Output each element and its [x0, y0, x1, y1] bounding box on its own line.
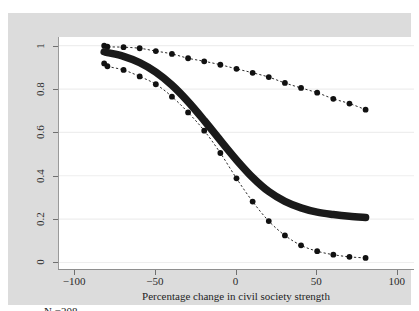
data-point — [250, 199, 256, 205]
x-axis-tick-label: 50 — [293, 275, 339, 287]
data-point — [185, 55, 191, 61]
data-point — [347, 254, 353, 260]
chart-plot-svg — [59, 37, 414, 269]
x-axis-tick-label: 100 — [374, 275, 419, 287]
data-point — [298, 242, 304, 248]
y-axis-tick-label: 0.2 — [33, 204, 47, 234]
plot-area — [58, 37, 413, 269]
data-point — [201, 58, 207, 64]
data-point — [250, 70, 256, 76]
data-point — [217, 150, 223, 156]
data-point — [347, 101, 353, 107]
data-point — [153, 81, 159, 87]
y-axis-tick-label: 0.4 — [33, 161, 47, 191]
y-axis-tick-label: 1 — [33, 31, 47, 61]
y-axis-tick-label: 0.6 — [33, 117, 47, 147]
sample-size-annotation: N =208 — [44, 305, 77, 311]
data-point — [217, 62, 223, 68]
y-axis-tick-label: 0.8 — [33, 74, 47, 104]
data-point — [169, 51, 175, 57]
series-line-point-estimate — [104, 52, 365, 218]
data-point — [234, 66, 240, 72]
page-artifact-text — [0, 0, 419, 13]
data-point — [266, 218, 272, 224]
data-point — [298, 85, 304, 91]
data-point — [185, 110, 191, 116]
data-point — [137, 45, 143, 51]
x-axis-tick-label: −100 — [51, 275, 97, 287]
data-point — [105, 63, 111, 69]
data-point — [282, 80, 288, 86]
y-axis-tick-label: 0 — [33, 247, 47, 277]
data-point — [363, 255, 369, 261]
y-axis-tick-mark — [53, 132, 58, 133]
data-point — [234, 175, 240, 181]
x-axis-title: Percentage change in civil society stren… — [58, 290, 414, 302]
data-point — [169, 94, 175, 100]
data-point — [137, 74, 143, 80]
y-axis-tick-mark — [53, 176, 58, 177]
data-point — [201, 128, 207, 134]
y-axis-tick-mark — [53, 46, 58, 47]
y-axis-tick-mark — [53, 219, 58, 220]
data-point — [314, 90, 320, 96]
data-point — [121, 67, 127, 73]
chart-outer-panel: 00.20.40.60.81 −100−50050100 Percentage … — [8, 13, 411, 305]
y-axis-tick-mark — [53, 262, 58, 263]
series-line-upper-confidence-bound — [104, 46, 365, 110]
x-axis-tick-label: 0 — [213, 275, 259, 287]
data-point — [266, 74, 272, 80]
data-point — [330, 252, 336, 258]
data-point — [282, 232, 288, 238]
y-axis-tick-mark — [53, 89, 58, 90]
data-point — [363, 107, 369, 113]
data-point — [153, 48, 159, 54]
data-point — [330, 96, 336, 102]
figure-container: 00.20.40.60.81 −100−50050100 Percentage … — [0, 0, 419, 311]
data-point — [314, 248, 320, 254]
x-axis-tick-label: −50 — [132, 275, 178, 287]
data-series-group — [101, 43, 368, 261]
gridline-group — [59, 46, 414, 263]
data-point — [121, 44, 127, 50]
